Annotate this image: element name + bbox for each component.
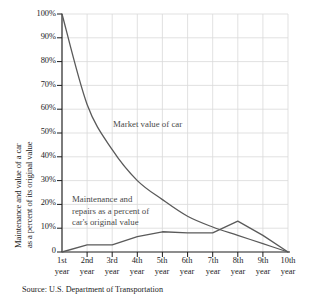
source-note: Source: U.S. Department of Transportatio… [22, 285, 163, 294]
x-tick-10-ord: 10th [268, 256, 308, 267]
x-tick-10: 10thyear [268, 256, 308, 277]
x-tick-10-unit: year [268, 267, 308, 278]
chart-figure: Maintenance and value of a car as a perc… [0, 0, 311, 304]
x-axis-tick-labels: 1styear 2ndyear 3rdyear 4thyear 5thyear … [0, 0, 311, 304]
